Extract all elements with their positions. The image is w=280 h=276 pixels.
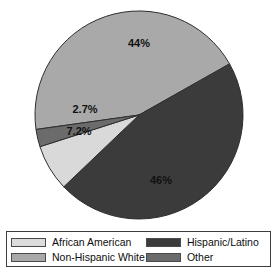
legend-item-other[interactable]: Other — [146, 251, 270, 264]
legend-label-non-hispanic-white: Non-Hispanic White — [52, 251, 145, 264]
legend-label-african-american: African American — [52, 236, 131, 249]
legend-swatch-non-hispanic-white — [11, 253, 46, 262]
pie-data-label-non-hispanic-white: 44% — [128, 37, 150, 49]
legend-item-hispanic-latino[interactable]: Hispanic/Latino — [146, 236, 270, 249]
chart-legend: African American Hispanic/Latino Non-His… — [6, 231, 271, 267]
legend-row: African American Hispanic/Latino — [7, 235, 270, 250]
legend-label-hispanic-latino: Hispanic/Latino — [187, 236, 259, 249]
legend-item-non-hispanic-white[interactable]: Non-Hispanic White — [7, 251, 146, 264]
legend-swatch-other — [146, 253, 181, 262]
legend-item-african-american[interactable]: African American — [7, 236, 146, 249]
pie-chart-area: 44%46%7.2%2.7% — [0, 0, 280, 226]
pie-data-label-other: 2.7% — [72, 103, 97, 115]
pie-data-label-african-american: 7.2% — [66, 125, 91, 137]
pie-chart-svg: 44%46%7.2%2.7% — [0, 0, 280, 226]
pie-data-label-hispanic-latino: 46% — [150, 174, 172, 186]
legend-label-other: Other — [187, 251, 213, 264]
legend-row: Non-Hispanic White Other — [7, 250, 270, 265]
legend-swatch-hispanic-latino — [146, 238, 181, 247]
legend-swatch-african-american — [11, 238, 46, 247]
